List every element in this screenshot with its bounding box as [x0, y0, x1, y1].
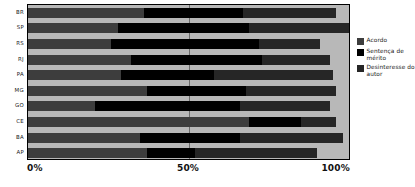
bar-segment-sentenca [118, 23, 250, 33]
bar-segment-sentenca [249, 117, 300, 127]
bar-segment-desinteresse [249, 23, 349, 33]
bar-segment-acordo [28, 133, 140, 143]
y-axis-label-sp: SP [0, 22, 24, 32]
legend-swatch-icon [357, 65, 364, 72]
bar-row [28, 39, 349, 49]
legend-item[interactable]: Acordo [357, 37, 415, 45]
bar-segment-sentenca [111, 39, 259, 49]
bar-row [28, 117, 349, 127]
bar-segment-acordo [28, 70, 121, 80]
bar-row [28, 23, 349, 33]
legend-item[interactable]: Desinteresse do autor [357, 64, 415, 77]
legend-label: Desinteresse do autor [367, 64, 415, 77]
bar-row [28, 8, 349, 18]
bar-row [28, 86, 349, 96]
y-axis-label-mg: MG [0, 85, 24, 95]
bar-segment-sentenca [147, 86, 247, 96]
bar-segment-sentenca [131, 55, 263, 65]
legend-swatch-icon [357, 49, 364, 56]
bar-segment-desinteresse [262, 55, 329, 65]
x-axis: 0% 50% 100% [0, 163, 415, 177]
y-axis-label-pa: PA [0, 69, 24, 79]
y-axis-label-go: GO [0, 100, 24, 110]
legend-item[interactable]: Sentença de mérito [357, 48, 415, 61]
bar-segment-desinteresse [240, 101, 330, 111]
bar-row [28, 55, 349, 65]
bar-segment-desinteresse [301, 117, 336, 127]
x-tick-50: 50% [177, 163, 199, 173]
bar-segment-desinteresse [243, 8, 336, 18]
bar-segment-desinteresse [259, 39, 320, 49]
bar-segment-desinteresse [214, 70, 333, 80]
bar-segment-acordo [28, 39, 111, 49]
plot-area [27, 4, 350, 160]
bar-segment-sentenca [144, 8, 244, 18]
bar-segment-acordo [28, 8, 144, 18]
stacked-bar-chart: BRSPRSRJPAMGGOCEBAAP 0% 50% 100% AcordoS… [0, 0, 415, 187]
legend-swatch-icon [357, 38, 364, 45]
bar-segment-desinteresse [240, 133, 343, 143]
bar-segment-sentenca [147, 148, 195, 158]
bar-segment-acordo [28, 101, 95, 111]
x-tick-100: 100% [321, 163, 350, 173]
bar-segment-acordo [28, 55, 131, 65]
bar-row [28, 148, 349, 158]
bar-segment-acordo [28, 86, 147, 96]
bar-segment-desinteresse [195, 148, 317, 158]
bar-segment-desinteresse [246, 86, 336, 96]
chart-legend: AcordoSentença de méritoDesinteresse do … [357, 37, 415, 80]
bar-segment-acordo [28, 148, 147, 158]
bar-row [28, 133, 349, 143]
y-axis-label-br: BR [0, 7, 24, 17]
bar-segment-sentenca [140, 133, 240, 143]
bar-segment-sentenca [121, 70, 214, 80]
bar-segment-acordo [28, 23, 118, 33]
y-axis-label-ap: AP [0, 147, 24, 157]
y-axis-label-ba: BA [0, 132, 24, 142]
y-axis-label-rj: RJ [0, 54, 24, 64]
legend-label: Sentença de mérito [367, 48, 415, 61]
y-axis-label-ce: CE [0, 116, 24, 126]
x-tick-0: 0% [27, 163, 43, 173]
y-axis-label-rs: RS [0, 38, 24, 48]
legend-label: Acordo [367, 37, 388, 44]
bar-row [28, 70, 349, 80]
bar-segment-acordo [28, 117, 249, 127]
bar-row [28, 101, 349, 111]
bar-segment-sentenca [95, 101, 239, 111]
